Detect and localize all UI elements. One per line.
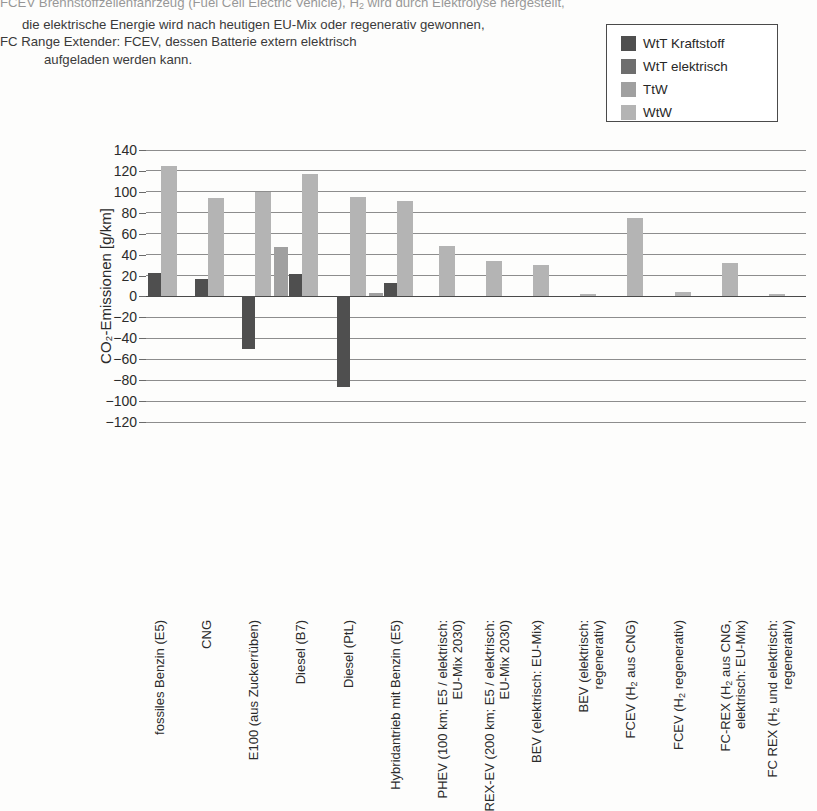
y-tick-label: 60 [121,226,137,242]
bar-wtw [350,197,366,296]
legend-swatch-icon [621,36,636,51]
bar-group [570,150,617,422]
bar-ttw [274,247,288,296]
y-tick [139,380,146,381]
bar-wtw [302,174,318,296]
y-tick-label: 0 [129,288,137,304]
plot-area: CO₂-Emissionen [g/km] 140120100806040200… [146,150,806,422]
bar-group [287,150,334,422]
caption-line-4: aufgeladen werden kann. [0,51,640,69]
bar-wtw [486,261,502,297]
bar-wtw [675,292,691,296]
bar-wtw [627,218,643,296]
y-tick [139,150,146,151]
x-tick-label-line: REX-EV (200 km; E5 / elektrisch: [482,620,497,811]
bar-wtt-kraftstoff [337,296,350,387]
legend-item-3: TtW [621,78,777,101]
bar-group [476,150,523,422]
bar-wtt-kraftstoff [384,283,397,297]
bar-group [193,150,240,422]
bar-wtw [397,201,413,296]
y-tick [139,171,146,172]
bar-wtw [439,246,455,296]
x-tick-label-line: Diesel (PtL) [341,620,356,688]
y-tick-label: 80 [121,205,137,221]
legend-label: WtT Kraftstoff [643,36,724,51]
bar-wtw [208,198,224,296]
y-tick-label: −120 [105,414,137,430]
y-tick [139,401,146,402]
bar-series-container [146,150,806,422]
y-tick-label: 20 [121,268,137,284]
x-tick-label-line: EU-Mix 2030) [450,620,465,699]
bar-group [712,150,759,422]
x-tick-label-line: Diesel (B7) [293,620,308,684]
x-tick-label-line: E100 (aus Zuckerrüben) [246,620,261,760]
bar-wtt-kraftstoff [242,296,255,348]
x-tick-label-line: fossiles Benzin (E5) [152,620,167,735]
bar-group [240,150,287,422]
y-tick [139,234,146,235]
x-tick-label-line: regenerativ) [591,620,606,689]
x-tick-label-line: BEV (elektrisch: [576,620,591,712]
y-tick [139,422,146,423]
legend-label: TtW [643,82,668,97]
legend-item-4: WtW [621,101,777,124]
y-axis-title: CO₂-Emissionen [g/km] [97,208,114,364]
x-axis-labels: fossiles Benzin (E5)CNGE100 (aus Zuckerr… [146,424,806,626]
bar-wtw [161,166,177,297]
y-tick [139,359,146,360]
bar-group [617,150,664,422]
legend-label: WtT elektrisch [643,59,728,74]
bar-wtw [255,192,271,297]
legend-swatch-icon [621,59,636,74]
legend-label: WtW [643,105,672,120]
legend-swatch-icon [621,105,636,120]
bar-group [382,150,429,422]
bar-group [335,150,382,422]
y-tick-label: −80 [113,372,137,388]
y-tick-label: 40 [121,247,137,263]
legend-swatch-icon [621,82,636,97]
bar-ttw [369,293,383,296]
caption-line-1: FCEV Brennstoffzellenfahrzeug (Fuel Cell… [0,0,640,16]
x-tick-label-line: FCEV (H2 aus CNG) [623,620,642,738]
legend-item-1: WtT Kraftstoff [621,32,777,55]
bar-wtt-kraftstoff [195,279,208,297]
bar-wtw [722,263,738,296]
y-tick [139,213,146,214]
y-tick-label: −40 [113,330,137,346]
x-tick-label-line: FCEV (H2 regenerativ) [671,620,690,750]
x-tick-label-line: PHEV (100 km; E5 / elektrisch: [435,620,450,798]
y-tick-label: 140 [114,142,137,158]
y-tick [139,317,146,318]
bar-group [429,150,476,422]
x-tick-label-line: regenerativ) [780,620,795,689]
y-tick [139,276,146,277]
bar-group [665,150,712,422]
y-tick-label: −60 [113,351,137,367]
x-tick-label-line: BEV (elektrisch: EU-Mix) [529,620,544,763]
bar-group [759,150,806,422]
y-tick [139,338,146,339]
caption-line-3: FC Range Extender: FCEV, dessen Batterie… [0,33,640,51]
y-tick-label: −20 [113,309,137,325]
y-tick-label: 120 [114,163,137,179]
x-tick-label-line: elektrisch: EU-Mix) [733,620,748,729]
bar-wtt-kraftstoff [148,273,161,296]
bar-group [146,150,193,422]
bar-wtt-kraftstoff [289,274,302,296]
figure-caption: FCEV Brennstoffzellenfahrzeug (Fuel Cell… [0,0,640,68]
bar-wtw [533,265,549,296]
legend-item-2: WtT elektrisch [621,55,777,78]
bar-wtw [769,294,785,296]
y-tick [139,255,146,256]
y-tick-label: 100 [114,184,137,200]
bar-wtw [580,294,596,296]
caption-line-2: die elektrische Energie wird nach heutig… [0,16,640,34]
x-tick-label-line: Hybridantrieb mit Benzin (E5) [388,620,403,790]
chart-legend: WtT KraftstoffWtT elektrischTtWWtW [606,24,778,122]
y-tick [139,192,146,193]
bar-group [523,150,570,422]
x-tick-label-line: EU-Mix 2030) [497,620,512,699]
